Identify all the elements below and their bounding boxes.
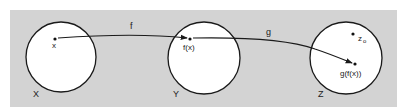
point-gfx-dot: [353, 62, 356, 65]
set-x-circle: [26, 22, 96, 92]
set-x-label: X: [33, 89, 39, 99]
map-g-label: g: [266, 27, 271, 37]
point-fx-label: f(x): [183, 43, 195, 52]
point-gfx-label: g(f(x)): [340, 69, 362, 78]
set-y-circle: [168, 22, 240, 94]
point-z0-dot: [351, 32, 354, 35]
point-fx-dot: [188, 37, 191, 40]
set-z-label: Z: [318, 89, 324, 99]
point-z0-main: z: [358, 34, 362, 43]
point-x-label: x: [52, 41, 56, 50]
function-composition-diagram: X Y Z f g x f(x) g(f(x)) zo: [0, 0, 407, 111]
set-y-label: Y: [173, 89, 179, 99]
set-z-circle: [310, 22, 382, 94]
